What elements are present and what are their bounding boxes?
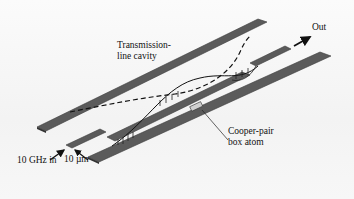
ground-strip-bottom <box>88 52 331 164</box>
cavity-label-line1: Transmission- <box>117 40 171 51</box>
atom-label-line2: box atom <box>228 137 274 148</box>
resonator-drawing <box>0 0 354 199</box>
atom-label-line1: Cooper-pair <box>228 126 274 137</box>
input-label: 10 GHz in <box>17 155 57 166</box>
center-conductor-output <box>250 46 291 66</box>
atom-label: Cooper-pair box atom <box>228 126 274 147</box>
center-conductor-input <box>66 129 106 148</box>
atom-pointer-line <box>202 110 228 140</box>
out-arrow <box>294 37 310 46</box>
gap-label: 10 µm <box>64 154 89 165</box>
cavity-label: Transmission- line cavity <box>117 40 171 61</box>
diagram-canvas: Transmission- line cavity Out Cooper-pai… <box>0 0 354 199</box>
out-label: Out <box>312 22 326 33</box>
cavity-label-line2: line cavity <box>117 51 171 62</box>
